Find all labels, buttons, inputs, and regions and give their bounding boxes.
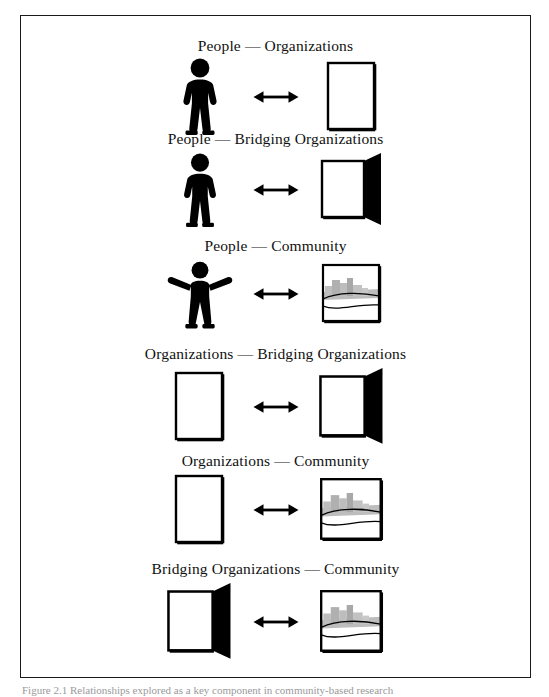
- icon-slot-left: [152, 258, 248, 330]
- row-icons: [21, 258, 530, 330]
- icon-slot-left: [152, 370, 248, 444]
- icon-slot-left: [152, 473, 248, 547]
- organization-icon: [173, 473, 227, 547]
- icon-slot-right: [304, 476, 400, 544]
- row-title: Organizations — Bridging Organizations: [21, 346, 530, 362]
- connector-slot: [248, 613, 304, 631]
- row-title: People — Bridging Organizations: [21, 131, 530, 147]
- double-headed-arrow-icon: [253, 285, 299, 303]
- relationship-row: Organizations — Community: [21, 453, 530, 547]
- organization-icon: [173, 370, 227, 444]
- bridging-organization-icon: [317, 366, 387, 448]
- bridging-organization-icon: [319, 151, 385, 229]
- organization-icon: [325, 60, 379, 134]
- row-title: People — Community: [21, 238, 530, 254]
- double-headed-arrow-icon: [253, 613, 299, 631]
- row-icons: [21, 58, 530, 136]
- relationship-row: People — Bridging Organizations: [21, 131, 530, 229]
- person-arms-out-icon: [167, 258, 233, 330]
- connector-slot: [248, 501, 304, 519]
- icon-slot-right: [304, 588, 400, 656]
- row-title: Organizations — Community: [21, 453, 530, 469]
- person-arms-down-icon: [175, 153, 225, 228]
- connector-slot: [248, 398, 304, 416]
- row-icons: [21, 581, 530, 663]
- figure-frame: People — Organizations: [20, 15, 531, 678]
- icon-slot-left: [152, 581, 248, 663]
- community-icon: [318, 588, 386, 656]
- icon-slot-right: [304, 366, 400, 448]
- connector-slot: [248, 88, 304, 106]
- relationship-row: Bridging Organizations — Community: [21, 561, 530, 663]
- community-icon: [320, 262, 384, 326]
- double-headed-arrow-icon: [253, 501, 299, 519]
- bridging-organization-icon: [165, 581, 235, 663]
- icon-slot-left: [152, 58, 248, 136]
- row-title: Bridging Organizations — Community: [21, 561, 530, 577]
- icon-slot-right: [304, 151, 400, 229]
- icon-slot-right: [304, 60, 400, 134]
- row-icons: [21, 473, 530, 547]
- double-headed-arrow-icon: [253, 181, 299, 199]
- row-icons: [21, 366, 530, 448]
- row-title: People — Organizations: [21, 38, 530, 54]
- icon-slot-left: [152, 153, 248, 228]
- connector-slot: [248, 285, 304, 303]
- relationship-row: People — Organizations: [21, 38, 530, 136]
- relationship-row: Organizations — Bridging Organizations: [21, 346, 530, 448]
- row-icons: [21, 151, 530, 229]
- icon-slot-right: [304, 262, 400, 326]
- person-arms-down-icon: [174, 58, 226, 136]
- relationship-row: People — Community: [21, 238, 530, 330]
- connector-slot: [248, 181, 304, 199]
- double-headed-arrow-icon: [253, 88, 299, 106]
- figure-caption: Figure 2.1 Relationships explored as a k…: [22, 684, 527, 697]
- community-icon: [318, 476, 386, 544]
- double-headed-arrow-icon: [253, 398, 299, 416]
